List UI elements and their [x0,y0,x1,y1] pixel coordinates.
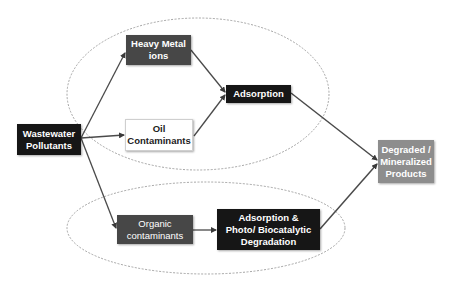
arrow-adsorption-to-degraded [291,93,377,160]
node-label: Organic contaminants [127,218,184,242]
arrow-oil-to-adsorption [194,95,225,136]
node-label: Adsorption & Photo/ Biocatalytic Degrada… [226,212,312,248]
node-organic-contaminants: Organic contaminants [117,215,193,244]
arrow-adsorption-photo-to-degraded [320,164,377,229]
node-label: Oil Contaminants [127,123,190,147]
arrow-wastewater-to-organic [81,138,116,228]
node-heavy-metal-ions: Heavy Metal ions [126,35,191,65]
node-degraded-mineralized-products: Degraded / Mineralized Products [378,140,434,183]
node-oil-contaminants: Oil Contaminants [125,119,193,151]
node-label: Heavy Metal ions [131,38,186,62]
arrow-heavy-metal-to-adsorption [191,50,225,92]
node-label: Wastewater Pollutants [23,128,75,152]
node-label: Adsorption [233,88,284,100]
node-adsorption: Adsorption [226,85,291,103]
node-wastewater-pollutants: Wastewater Pollutants [17,124,81,155]
node-adsorption-photo-biocatalytic-degradation: Adsorption & Photo/ Biocatalytic Degrada… [217,209,320,250]
arrow-wastewater-to-heavy-metal [81,53,125,138]
node-label: Degraded / Mineralized Products [380,144,432,180]
arrow-wastewater-to-oil [81,135,124,138]
